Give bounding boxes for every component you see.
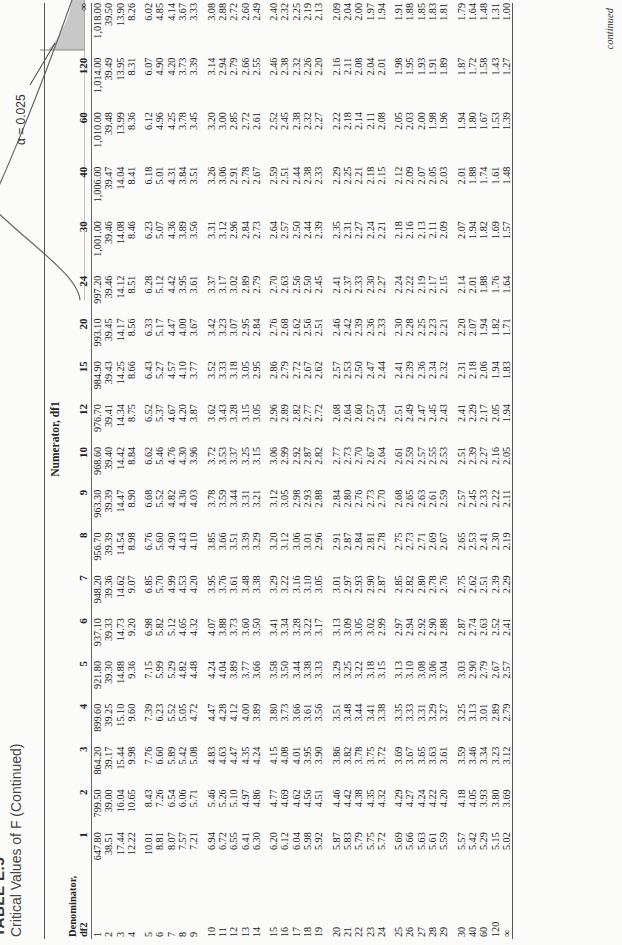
value-cell: 2.89 [240, 276, 251, 319]
value-cell: 4.10 [177, 361, 188, 404]
value-cell: 4.48 [188, 661, 199, 704]
value-cell: 3.22 [279, 575, 290, 618]
value-cell: 4.38 [353, 789, 364, 832]
value-cell: 3.95 [177, 276, 188, 319]
value-cell: 4.47 [166, 318, 177, 361]
value-cell: 2.77 [302, 404, 313, 447]
value-cell: 3.07 [228, 318, 239, 361]
value-cell: 4.42 [342, 789, 353, 832]
denominator-header: Denominator, df2 [67, 875, 92, 939]
value-cell: 8.81 [154, 832, 165, 875]
table-row: 285.614.223.633.293.062.902.782.692.612.… [427, 3, 438, 939]
value-cell: 3.75 [365, 747, 376, 790]
value-cell: 2.84 [331, 490, 342, 533]
value-cell: 4.56 [302, 789, 313, 832]
value-cell: 3.95 [302, 747, 313, 790]
value-cell: 3.33 [217, 361, 228, 404]
column-header: 30 [67, 221, 92, 276]
column-header: 5 [67, 661, 92, 704]
value-cell: 956.70 [92, 533, 104, 576]
value-cell: 1.71 [501, 318, 512, 361]
column-header: 20 [67, 318, 92, 361]
value-cell: 8.84 [126, 447, 137, 490]
table-row: 238.5139.0039.1739.2539.3039.3339.3639.3… [103, 3, 114, 939]
value-cell: 4.53 [177, 575, 188, 618]
value-cell: 997.20 [92, 276, 104, 319]
value-cell: 2.77 [331, 447, 342, 490]
value-cell: 1.48 [501, 167, 512, 222]
value-cell: 2.62 [467, 575, 478, 618]
value-cell: 2.67 [438, 533, 449, 576]
value-cell: 6.85 [143, 575, 154, 618]
value-cell: 16.04 [115, 789, 126, 832]
value-cell: 948.20 [92, 575, 104, 618]
value-cell: 1.88 [478, 276, 489, 319]
value-cell: 1.96 [438, 112, 449, 167]
value-cell: 3.25 [240, 447, 251, 490]
value-cell: 2.01 [467, 276, 478, 319]
value-cell: 3.06 [217, 167, 228, 222]
value-cell: 2.32 [438, 361, 449, 404]
value-cell: 3.01 [331, 575, 342, 618]
value-cell: 5.83 [342, 832, 353, 875]
value-cell: 1.89 [438, 58, 449, 113]
table-row: 136.414.974.354.003.773.603.483.393.313.… [240, 3, 251, 939]
value-cell: 2.74 [467, 618, 478, 661]
value-cell: 2.33 [478, 490, 489, 533]
value-cell: 5.71 [188, 789, 199, 832]
value-cell: 647.80 [92, 832, 104, 875]
value-cell: 4.24 [206, 661, 217, 704]
value-cell: 2.51 [393, 404, 404, 447]
value-cell: 3.85 [206, 533, 217, 576]
value-cell: 2.45 [279, 112, 290, 167]
value-cell: 3.35 [393, 704, 404, 747]
value-cell: 39.25 [103, 704, 114, 747]
value-cell: 3.67 [404, 747, 415, 790]
value-cell: 976.70 [92, 404, 104, 447]
value-cell: 2.04 [342, 3, 353, 58]
value-cell: 1.94 [478, 318, 489, 361]
value-cell: 5.87 [331, 832, 342, 875]
value-cell: 6.23 [143, 221, 154, 276]
value-cell: 5.79 [353, 832, 364, 875]
value-cell: 39.40 [103, 447, 114, 490]
value-cell: 1.61 [490, 167, 501, 222]
value-cell: 3.61 [188, 276, 199, 319]
value-cell: 6.20 [268, 832, 279, 875]
value-cell: 3.86 [331, 747, 342, 790]
table-row: 97.215.715.084.724.484.324.204.104.033.9… [188, 3, 199, 939]
value-cell: 3.43 [217, 404, 228, 447]
value-cell: 2.57 [331, 361, 342, 404]
value-cell: 6.04 [291, 832, 302, 875]
value-cell: 2.79 [228, 58, 239, 113]
value-cell: 3.60 [240, 618, 251, 661]
df2-cell: 40 [467, 875, 478, 939]
df2-cell: ∞ [501, 875, 512, 939]
value-cell: 4.51 [313, 789, 324, 832]
df2-cell: 24 [376, 875, 387, 939]
value-cell: 9.98 [126, 747, 137, 790]
value-cell: 2.38 [302, 167, 313, 222]
value-cell: 2.18 [393, 221, 404, 276]
value-cell: 5.69 [393, 832, 404, 875]
value-cell: 2.32 [279, 3, 290, 58]
value-cell: 2.60 [353, 404, 364, 447]
value-cell: 1.91 [393, 3, 404, 58]
value-cell: 2.00 [353, 3, 364, 58]
value-cell: 39.39 [103, 533, 114, 576]
value-cell: 5.89 [166, 747, 177, 790]
value-cell: 2.70 [268, 276, 279, 319]
table-row: 1205.153.803.232.892.672.522.392.302.222… [490, 3, 501, 939]
value-cell: 3.72 [206, 447, 217, 490]
value-cell: 2.28 [404, 318, 415, 361]
value-cell: 14.25 [115, 361, 126, 404]
value-cell: 1.94 [467, 221, 478, 276]
value-cell: 3.67 [188, 318, 199, 361]
value-cell: 1,010.00 [92, 112, 104, 167]
value-cell: 3.50 [279, 661, 290, 704]
value-cell: 3.80 [490, 789, 501, 832]
value-cell: 5.05 [177, 704, 188, 747]
value-cell: 6.55 [228, 832, 239, 875]
value-cell: 2.57 [501, 661, 512, 704]
value-cell: 2.42 [342, 318, 353, 361]
